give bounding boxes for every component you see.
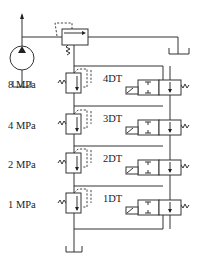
solenoid-label-3dt: 3DT xyxy=(103,114,122,125)
return-tank-icon xyxy=(169,48,189,54)
pressure-label-1mpa: 1 MPa xyxy=(8,200,36,211)
relief-valve-2mpa xyxy=(58,149,87,173)
main-relief-valve xyxy=(55,23,88,55)
relief-valve-8mpa xyxy=(58,69,87,93)
directional-valve-3dt xyxy=(126,120,189,135)
relief-valve-4mpa xyxy=(58,110,87,134)
pressure-label-8mpa: 8 MPa xyxy=(8,80,36,91)
directional-valve-2dt xyxy=(126,160,189,175)
pressure-label-4mpa: 4 MPa xyxy=(8,121,36,132)
solenoid-label-4dt: 4DT xyxy=(103,74,122,85)
pump xyxy=(10,13,34,87)
pressure-label-2mpa: 2 MPa xyxy=(8,160,36,171)
directional-valve-1dt xyxy=(126,200,189,215)
relief-valve-1mpa xyxy=(58,189,87,213)
directional-valve-4dt xyxy=(126,80,189,95)
solenoid-label-2dt: 2DT xyxy=(103,154,122,165)
return-line xyxy=(88,37,178,54)
solenoid-label-1dt: 1DT xyxy=(103,194,122,205)
